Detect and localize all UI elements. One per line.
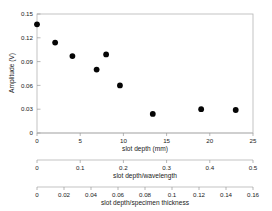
figure-background — [0, 0, 272, 211]
x-tick-label: 0.5 — [249, 164, 258, 171]
data-point — [94, 67, 100, 73]
x-tick-label: 15 — [163, 137, 170, 144]
x-tick-label: 0.14 — [220, 191, 233, 198]
data-point — [52, 40, 58, 46]
x-tick-label: 20 — [206, 137, 213, 144]
x-tick-label: 0.2 — [119, 164, 128, 171]
x-tick-label: 0 — [35, 164, 39, 171]
x-tick-label: 0.02 — [58, 191, 71, 198]
x-tick-label: 0 — [35, 137, 39, 144]
y-tick-label: 0.15 — [21, 10, 34, 17]
data-point — [150, 111, 156, 117]
x-tick-label: 0.04 — [85, 191, 98, 198]
x-axis-title-slot-depth-over-wavelength: slot depth/wavelength — [113, 172, 177, 180]
x-axis-title-slot-depth-mm: slot depth (mm) — [122, 145, 168, 153]
y-tick-label: 0 — [30, 129, 34, 136]
y-tick-label: 0.06 — [21, 82, 34, 89]
y-tick-label: 0.03 — [21, 105, 34, 112]
x-tick-label: 0.12 — [193, 191, 206, 198]
scatter-plot-figure: 00.030.060.090.120.15 Amplitude (V) 0510… — [0, 0, 272, 211]
data-point — [103, 52, 109, 58]
x-tick-label: 10 — [120, 137, 127, 144]
x-tick-label: 0.16 — [247, 191, 260, 198]
x-tick-label: 0.1 — [76, 164, 85, 171]
x-tick-label: 0.3 — [162, 164, 171, 171]
x-axis-title-slot-depth-over-specimen-thickness: slot depth/specimen thickness — [101, 199, 190, 207]
x-tick-label: 0.06 — [112, 191, 125, 198]
data-point — [117, 83, 123, 89]
data-point — [233, 107, 239, 113]
x-tick-label: 0.1 — [168, 191, 177, 198]
x-tick-label: 0.08 — [139, 191, 152, 198]
x-tick-label: 5 — [78, 137, 82, 144]
x-tick-label: 0.4 — [205, 164, 214, 171]
x-tick-label: 0 — [35, 191, 39, 198]
x-tick-label: 25 — [250, 137, 257, 144]
y-axis-title: Amplitude (V) — [8, 53, 16, 93]
data-point — [34, 21, 40, 27]
data-point — [198, 106, 204, 112]
data-point — [70, 53, 76, 59]
y-tick-label: 0.12 — [21, 34, 34, 41]
y-tick-label: 0.09 — [21, 58, 34, 65]
